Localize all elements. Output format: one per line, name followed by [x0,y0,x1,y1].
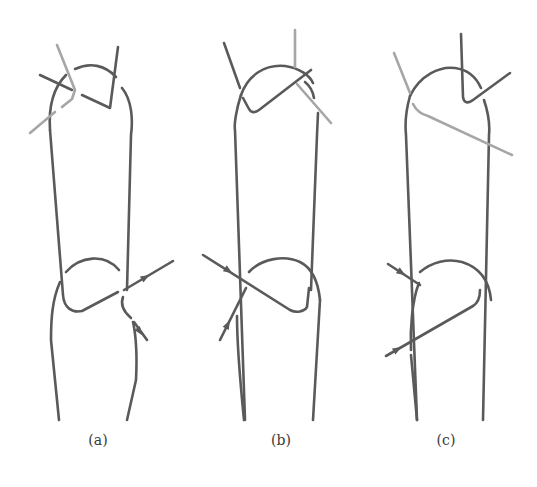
caption-c: (c) [437,432,456,448]
caption-a: (a) [88,432,107,448]
chain-link-tie-diagram [0,0,537,487]
caption-b: (b) [271,432,291,448]
background [0,0,537,487]
